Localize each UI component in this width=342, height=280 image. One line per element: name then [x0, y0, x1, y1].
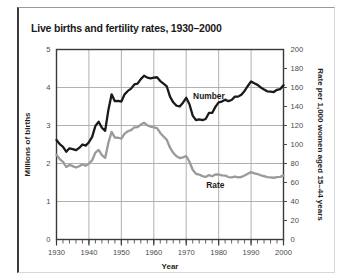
x-tick-label: 1980 [210, 248, 227, 257]
x-tick-label: 1930 [48, 248, 65, 257]
y-tick-label-left: 3 [46, 121, 50, 130]
y-tick-label-right: 0 [291, 235, 295, 244]
y-tick-label-left: 2 [46, 159, 50, 168]
y-tick-label-right: 200 [291, 45, 304, 54]
y-tick-label-right: 40 [291, 197, 299, 206]
y-tick-label-right: 60 [291, 178, 299, 187]
grid-lines [57, 50, 284, 240]
y-tick-label-right: 80 [291, 159, 299, 168]
x-tick-label: 1990 [243, 248, 260, 257]
plot-frame-box [57, 50, 284, 240]
series-annotation-number: Number [193, 91, 225, 101]
y-tick-label-right: 160 [291, 83, 304, 92]
x-tick-label: 2000 [275, 248, 292, 257]
y-axis-title-left: Millions of births [23, 112, 32, 177]
plot-border [57, 50, 284, 240]
x-axis-ticks: 19301940195019601970198019902000 [48, 240, 292, 257]
y-tick-label-left: 0 [46, 235, 50, 244]
y-tick-label-left: 1 [46, 197, 50, 206]
x-tick-label: 1960 [145, 248, 162, 257]
y-tick-label-right: 180 [291, 64, 304, 73]
y-tick-label-right: 120 [291, 121, 304, 130]
y-tick-label-left: 4 [46, 83, 50, 92]
x-tick-label: 1970 [178, 248, 195, 257]
y-tick-label-right: 100 [291, 140, 304, 149]
x-tick-label: 1950 [113, 248, 130, 257]
line-chart-plot: 19301940195019601970198019902000 012345 … [0, 0, 342, 280]
y-axis-left-ticks: 012345 [46, 45, 50, 244]
figure-container: Live births and fertility rates, 1930–20… [0, 0, 342, 280]
y-axis-right-ticks: 020406080100120140160180200 [284, 45, 304, 244]
y-axis-title-right: Rate per 1,000 women aged 15–44 years [316, 68, 325, 221]
x-tick-label: 1940 [80, 248, 97, 257]
series-annotation-rate: Rate [206, 180, 224, 190]
y-tick-label-right: 140 [291, 102, 304, 111]
x-axis-title: Year [162, 262, 179, 271]
y-tick-label-right: 20 [291, 216, 299, 225]
series-lines [57, 76, 284, 178]
y-tick-label-left: 5 [46, 45, 50, 54]
series-line-rate [57, 123, 284, 178]
